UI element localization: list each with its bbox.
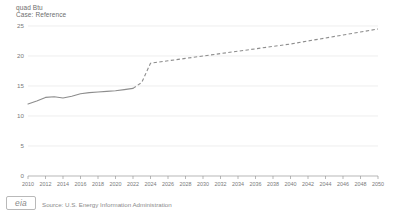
x-axis-tick-label: 2032 xyxy=(215,181,227,187)
source-attribution: Source: U.S. Energy Information Administ… xyxy=(42,201,172,208)
y-axis-tick-label: 25 xyxy=(17,22,24,29)
x-axis-tick-label: 2034 xyxy=(232,181,244,187)
data-series-projection xyxy=(133,29,378,88)
y-axis-tick-label: 10 xyxy=(17,112,24,119)
x-axis-tick-label: 2012 xyxy=(40,181,52,187)
x-axis-tick-label: 2016 xyxy=(75,181,87,187)
x-axis-tick-label: 2036 xyxy=(250,181,262,187)
x-axis-tick-label: 2046 xyxy=(337,181,349,187)
x-axis-tick-label: 2028 xyxy=(180,181,192,187)
data-series-history xyxy=(28,88,133,104)
x-axis-tick-label: 2026 xyxy=(162,181,174,187)
line-chart-plot: 0510152025201020122014201620182020202220… xyxy=(0,0,397,195)
x-axis-tick-label: 2020 xyxy=(110,181,122,187)
x-axis-tick-label: 2018 xyxy=(92,181,104,187)
x-axis-tick-label: 2030 xyxy=(197,181,209,187)
x-axis-tick-label: 2048 xyxy=(355,181,367,187)
x-axis-tick-label: 2024 xyxy=(145,181,157,187)
x-axis-tick-label: 2014 xyxy=(57,181,69,187)
y-axis-tick-label: 15 xyxy=(17,82,24,89)
y-axis-tick-label: 20 xyxy=(17,52,24,59)
x-axis-tick-label: 2022 xyxy=(127,181,139,187)
y-axis-tick-label: 0 xyxy=(21,172,25,179)
x-axis-tick-label: 2038 xyxy=(267,181,279,187)
y-axis-tick-label: 5 xyxy=(21,142,25,149)
x-axis-tick-label: 2040 xyxy=(285,181,297,187)
x-axis-tick-label: 2042 xyxy=(302,181,314,187)
chart-footer: eia Source: U.S. Energy Information Admi… xyxy=(0,192,397,212)
x-axis-tick-label: 2050 xyxy=(372,181,384,187)
chart-container: quad Btu Case: Reference 051015202520102… xyxy=(0,0,397,213)
eia-logo: eia xyxy=(6,196,36,210)
x-axis-tick-label: 2010 xyxy=(22,181,34,187)
x-axis-tick-label: 2044 xyxy=(320,181,332,187)
